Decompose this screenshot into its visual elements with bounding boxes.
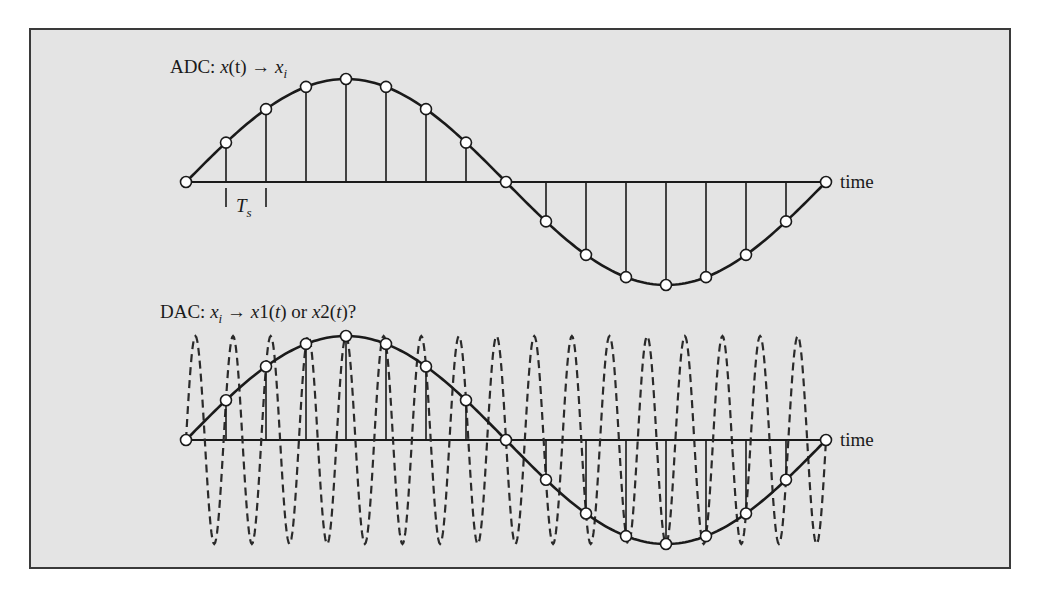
sample-marker [781, 474, 792, 485]
sample-marker [661, 539, 672, 550]
sample-marker [461, 137, 472, 148]
sample-marker [181, 435, 192, 446]
sample-marker [541, 216, 552, 227]
sample-marker [461, 395, 472, 406]
sample-marker [261, 104, 272, 115]
sample-marker [541, 474, 552, 485]
sample-marker [821, 177, 832, 188]
dac-plot [181, 331, 832, 550]
adc-time-label: time [840, 171, 874, 192]
sample-marker [501, 177, 512, 188]
sampling-diagram: ADC: x(t) → xi time Ts DAC: xi → x1(t) o… [0, 0, 1041, 592]
sample-marker [621, 531, 632, 542]
sample-marker [661, 280, 672, 291]
sample-marker [381, 81, 392, 92]
sample-marker [301, 338, 312, 349]
ts-label: Ts [236, 195, 252, 220]
sample-marker [581, 249, 592, 260]
sample-period-annotation: Ts [226, 188, 266, 220]
sample-marker [741, 249, 752, 260]
dac-time-label: time [840, 429, 874, 450]
sample-marker [621, 272, 632, 283]
sample-marker [341, 74, 352, 85]
sample-marker [701, 531, 712, 542]
sample-marker [501, 435, 512, 446]
sample-marker [221, 395, 232, 406]
sample-marker [301, 81, 312, 92]
sample-marker [181, 177, 192, 188]
sample-marker [341, 331, 352, 342]
sample-marker [421, 104, 432, 115]
adc-plot [181, 74, 832, 291]
sample-marker [701, 272, 712, 283]
sample-marker [381, 338, 392, 349]
sample-marker [821, 435, 832, 446]
sample-marker [581, 508, 592, 519]
adc-label: ADC: x(t) → xi [170, 56, 287, 81]
sample-marker [781, 216, 792, 227]
sample-marker [221, 137, 232, 148]
dac-label: DAC: xi → x1(t) or x2(t)? [160, 301, 356, 326]
sample-marker [421, 361, 432, 372]
sample-marker [741, 508, 752, 519]
sample-marker [261, 361, 272, 372]
